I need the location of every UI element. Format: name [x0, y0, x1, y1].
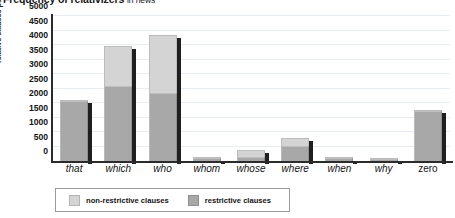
bar-segment-restrictive[interactable]: [104, 86, 132, 161]
y-axis-tick-label: 1000: [29, 117, 48, 127]
x-axis-tick-label: why: [362, 163, 406, 174]
y-axis-tick-label: 4500: [29, 16, 48, 26]
bar-group[interactable]: [281, 16, 309, 161]
bar-group[interactable]: [414, 16, 442, 161]
x-axis-tick-label: which: [96, 163, 140, 174]
bar-group[interactable]: [149, 16, 177, 161]
bar-stack[interactable]: [60, 100, 88, 161]
legend-label: non-restrictive clauses: [86, 196, 169, 205]
bar-stack[interactable]: [104, 46, 132, 161]
chart-legend: non-restrictive clausesrestrictive claus…: [55, 188, 290, 212]
bar-group[interactable]: [60, 16, 88, 161]
x-axis-tick-label: whom: [185, 163, 229, 174]
bar-group[interactable]: [104, 16, 132, 161]
y-axis-line: [51, 14, 53, 162]
y-axis-tick-label: 2000: [29, 88, 48, 98]
chart-title: Frequency of relativizers in news: [3, 0, 155, 5]
bar-segment-non-restrictive[interactable]: [281, 138, 309, 146]
bar-segment-restrictive[interactable]: [414, 111, 442, 161]
x-axis-tick-label: zero: [406, 163, 450, 174]
y-axis-tick-label: 2500: [29, 74, 48, 84]
x-axis-tick-label: who: [140, 163, 184, 174]
bar-stack[interactable]: [149, 35, 177, 161]
bar-shadow: [88, 103, 92, 164]
bar-segment-restrictive[interactable]: [60, 101, 88, 161]
bar-segment-non-restrictive[interactable]: [325, 157, 353, 158]
bar-stack[interactable]: [281, 138, 309, 161]
legend-label: restrictive clauses: [205, 196, 271, 205]
x-axis-tick-label: that: [52, 163, 96, 174]
bar-segment-restrictive[interactable]: [281, 146, 309, 161]
y-axis-tick-label: 3500: [29, 45, 48, 55]
bar-series-group: [52, 16, 450, 161]
legend-entry[interactable]: restrictive clauses: [188, 195, 271, 206]
chart-figure: Frequency of relativizers in news relati…: [0, 0, 455, 218]
bar-shadow: [442, 113, 446, 164]
y-axis-tick-label: 3000: [29, 59, 48, 69]
bar-group[interactable]: [325, 16, 353, 161]
bar-stack[interactable]: [414, 110, 442, 161]
bar-group[interactable]: [237, 16, 265, 161]
bar-shadow: [177, 38, 181, 164]
bar-segment-restrictive[interactable]: [149, 93, 177, 161]
plot-area: 0500100015002000250030003500400045005000: [52, 16, 450, 161]
legend-entry[interactable]: non-restrictive clauses: [69, 195, 169, 206]
y-axis-title: relative clauses per million words: [0, 0, 7, 79]
bar-stack[interactable]: [237, 150, 265, 161]
x-axis-tick-label: when: [317, 163, 361, 174]
x-axis-tick-label: whose: [229, 163, 273, 174]
y-axis-tick-label: 500: [34, 132, 48, 142]
bar-segment-non-restrictive[interactable]: [104, 46, 132, 85]
chart-title-suffix: in news: [127, 0, 155, 5]
bar-group[interactable]: [370, 16, 398, 161]
bar-segment-non-restrictive[interactable]: [370, 158, 398, 159]
y-axis-tick-label: 1500: [29, 103, 48, 113]
y-axis-tick-label: 4000: [29, 30, 48, 40]
y-axis-tick-label: 5000: [29, 1, 48, 11]
x-axis-tick-labels: thatwhichwhowhomwhosewherewhenwhyzero: [52, 163, 450, 179]
legend-swatch-restrictive: [188, 195, 199, 206]
y-axis-tick-label: 0: [43, 146, 48, 156]
bar-group[interactable]: [193, 16, 221, 161]
bar-segment-non-restrictive[interactable]: [193, 157, 221, 158]
bar-segment-non-restrictive[interactable]: [414, 110, 442, 111]
bar-segment-non-restrictive[interactable]: [149, 35, 177, 92]
legend-swatch-non-restrictive: [69, 195, 80, 206]
bar-segment-non-restrictive[interactable]: [60, 100, 88, 101]
chart-title-main: Frequency of relativizers: [3, 0, 124, 5]
bar-segment-non-restrictive[interactable]: [237, 150, 265, 157]
bar-shadow: [132, 49, 136, 164]
x-axis-tick-label: where: [273, 163, 317, 174]
